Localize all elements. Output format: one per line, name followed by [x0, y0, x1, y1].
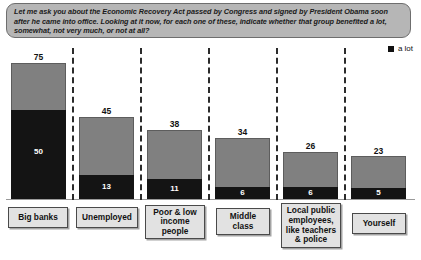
- bar-total-label: 38: [147, 119, 202, 129]
- bar-value-label: 11: [148, 184, 201, 193]
- bar-segment-a-lot: 6: [283, 187, 338, 199]
- bar-segment-total: [351, 156, 406, 188]
- category-label-poor-low-income: Poor & low income people: [145, 205, 205, 239]
- bar-segment-a-lot: 5: [351, 188, 406, 199]
- category-label-big-banks: Big banks: [8, 207, 68, 228]
- bar-stack: 6: [283, 152, 338, 199]
- bar-group: 23 5: [351, 48, 406, 199]
- axis-baseline: [6, 199, 415, 200]
- bar-group: 75 50: [11, 48, 66, 199]
- bar-total-label: 75: [11, 52, 66, 62]
- category-divider: [140, 48, 142, 200]
- bar-value-label: 6: [284, 188, 337, 197]
- bar-value-label: 6: [216, 188, 269, 197]
- bar-total-label: 26: [283, 141, 338, 151]
- bar-group: 38 11: [147, 48, 202, 199]
- bar-group: 26 6: [283, 48, 338, 199]
- category-divider: [276, 48, 278, 200]
- category-label-middle-class: Middle class: [216, 208, 270, 235]
- plot-area: 75 50 45 13 38 11: [0, 48, 421, 200]
- bar-group: 34 6: [215, 48, 270, 199]
- bar-segment-total: [11, 63, 66, 110]
- category-divider: [344, 48, 346, 200]
- bar-stack: 50: [11, 63, 66, 199]
- survey-question-prompt: Let me ask you about the Economic Recove…: [6, 3, 411, 38]
- category-divider: [208, 48, 210, 200]
- bar-stack: 6: [215, 138, 270, 199]
- category-divider: [72, 48, 74, 200]
- bar-value-label: 50: [12, 147, 65, 156]
- bar-segment-total: [79, 117, 134, 175]
- category-label-local-public-employees: Local public employees, like teachers & …: [281, 203, 341, 248]
- category-label-unemployed: Unemployed: [76, 207, 138, 228]
- bar-stack: 13: [79, 117, 134, 199]
- bar-segment-total: [283, 152, 338, 187]
- bar-total-label: 34: [215, 127, 270, 137]
- bar-stack: 11: [147, 130, 202, 199]
- bar-total-label: 45: [79, 106, 134, 116]
- bar-segment-total: [147, 130, 202, 179]
- category-label-row: Big banks Unemployed Poor & low income p…: [0, 203, 421, 258]
- bar-segment-a-lot: 11: [147, 179, 202, 199]
- chart-figure: Let me ask you about the Economic Recove…: [0, 0, 421, 260]
- bar-stack: 5: [351, 156, 406, 199]
- bar-segment-a-lot: 6: [215, 187, 270, 199]
- bar-segment-a-lot: 13: [79, 175, 134, 199]
- bar-group: 45 13: [79, 48, 134, 199]
- bar-value-label: 13: [80, 182, 133, 191]
- bar-segment-a-lot: 50: [11, 110, 66, 199]
- category-label-yourself: Yourself: [352, 213, 406, 234]
- bar-total-label: 23: [351, 146, 406, 156]
- bar-segment-total: [215, 138, 270, 187]
- bar-value-label: 5: [352, 188, 405, 197]
